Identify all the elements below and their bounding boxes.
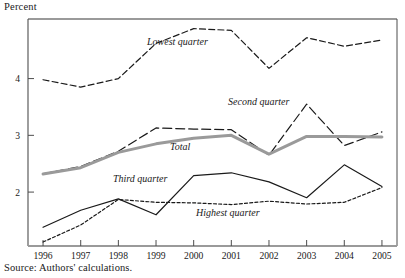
x-tick-label: 2004 xyxy=(335,250,354,261)
x-tick-label: 2005 xyxy=(372,250,391,261)
source-note: Source: Authors' calculations. xyxy=(4,262,132,273)
x-tick-label: 2001 xyxy=(222,250,241,261)
x-tick-label: 2000 xyxy=(184,250,203,261)
y-tick-label: 3 xyxy=(15,130,20,141)
x-tick-label: 2002 xyxy=(259,250,278,261)
annotation-second-quarter: Second quarter xyxy=(228,96,289,107)
series-line-lowest-quarter xyxy=(43,29,382,87)
chart-figure: Percent 234 1996199719981999200020012002… xyxy=(0,0,405,278)
y-tick-label: 4 xyxy=(15,73,20,84)
annotation-third-quarter: Third quarter xyxy=(113,173,167,184)
line-chart-plot: 234 199619971998199920002001200220032004… xyxy=(0,0,405,278)
x-tick-label: 2003 xyxy=(297,250,316,261)
y-tick-label: 2 xyxy=(15,187,20,198)
x-tick-label: 1999 xyxy=(146,250,165,261)
y-axis-ticks: 234 xyxy=(15,73,34,198)
x-tick-label: 1996 xyxy=(33,250,52,261)
series-line-total xyxy=(43,135,382,174)
x-tick-label: 1998 xyxy=(109,250,128,261)
annotation-total: Total xyxy=(170,141,190,152)
x-tick-label: 1997 xyxy=(71,250,90,261)
annotation-highest-quarter: Highest quarter xyxy=(195,207,260,218)
x-axis-ticks: 1996199719981999200020012002200320042005 xyxy=(33,240,391,261)
annotation-lowest-quarter: Lowest quarter xyxy=(146,36,208,47)
series-annotations: Lowest quarterSecond quarterTotalThird q… xyxy=(113,36,289,218)
